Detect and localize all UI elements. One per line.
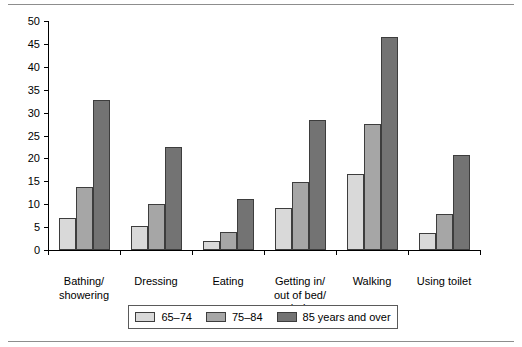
bar: [220, 232, 237, 250]
category-label: Bathing/ showering: [48, 275, 120, 302]
bar: [419, 233, 436, 250]
plot-area: 05101520253035404550 Bathing/ showeringD…: [48, 21, 480, 250]
chart-legend: 65–7475–8485 years and over: [128, 305, 398, 329]
y-axis-tick-label: 20: [28, 153, 40, 164]
chart-figure: 05101520253035404550 Bathing/ showeringD…: [0, 0, 522, 347]
y-axis-tick-label: 25: [28, 130, 40, 141]
legend-item: 65–74: [135, 312, 192, 323]
x-axis-tick: [264, 250, 265, 255]
bar: [309, 120, 326, 250]
bar-group: [264, 21, 336, 250]
category-label: Dressing: [120, 275, 192, 289]
legend-label: 85 years and over: [303, 312, 391, 323]
y-axis-tick-label: 15: [28, 176, 40, 187]
category-label: Walking: [336, 275, 408, 289]
category-label: Using toilet: [408, 275, 480, 289]
x-axis-tick: [120, 250, 121, 255]
legend-swatch: [277, 312, 297, 322]
bar-group: [336, 21, 408, 250]
legend-item: 85 years and over: [277, 312, 391, 323]
bar: [148, 204, 165, 250]
x-axis-tick: [336, 250, 337, 255]
bar: [93, 100, 110, 250]
bar: [453, 155, 470, 250]
bar: [292, 182, 309, 250]
x-axis-tick: [480, 250, 481, 255]
x-axis-tick: [192, 250, 193, 255]
bar: [364, 124, 381, 250]
y-axis-tick-label: 30: [28, 107, 40, 118]
category-label: Eating: [192, 275, 264, 289]
top-rule: [8, 4, 514, 5]
bar: [237, 199, 254, 250]
bar-group: [120, 21, 192, 250]
x-axis-tick: [408, 250, 409, 255]
bar-group: [408, 21, 480, 250]
bar-group: [192, 21, 264, 250]
y-axis-tick-label: 45: [28, 38, 40, 49]
y-axis-tick-label: 5: [34, 222, 40, 233]
bar: [275, 208, 292, 250]
bar: [347, 174, 364, 250]
y-axis-tick-label: 10: [28, 199, 40, 210]
bar: [381, 37, 398, 250]
y-axis-tick-label: 35: [28, 84, 40, 95]
legend-item: 75–84: [206, 312, 263, 323]
x-axis-tick: [48, 250, 49, 255]
bar: [76, 187, 93, 250]
legend-swatch: [135, 312, 155, 322]
legend-label: 65–74: [161, 312, 192, 323]
bottom-rule: [8, 341, 514, 342]
y-axis-tick-label: 0: [34, 245, 40, 256]
y-axis-tick-label: 40: [28, 61, 40, 72]
legend-label: 75–84: [232, 312, 263, 323]
bar: [165, 147, 182, 251]
bar-group: [48, 21, 120, 250]
y-axis-tick-label: 50: [28, 16, 40, 27]
legend-swatch: [206, 312, 226, 322]
bar: [59, 218, 76, 250]
bar: [203, 241, 220, 250]
bar: [436, 214, 453, 250]
bar: [131, 226, 148, 250]
